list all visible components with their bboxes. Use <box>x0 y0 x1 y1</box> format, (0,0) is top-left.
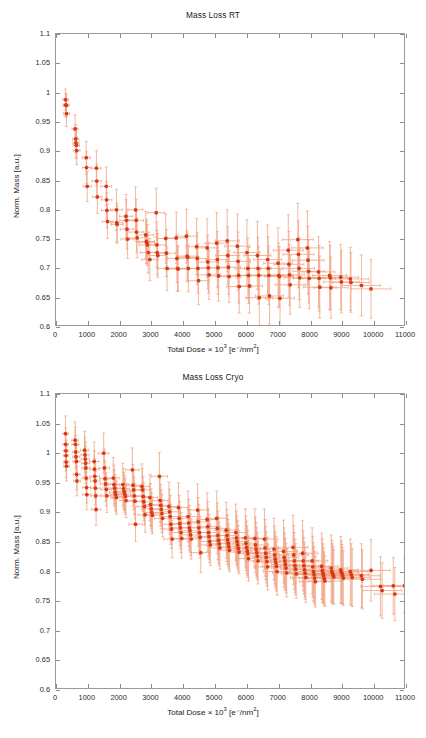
y-tick <box>56 298 60 299</box>
x-tick <box>151 684 152 688</box>
y-tick-label: 1.05 <box>12 418 50 427</box>
x-tick-top <box>311 394 312 398</box>
x-tick <box>374 321 375 325</box>
x-tick-top <box>374 34 375 38</box>
x-tick-top <box>183 394 184 398</box>
x-tick-label: 3000 <box>142 693 158 702</box>
x-tick <box>342 321 343 325</box>
y-tick <box>56 210 60 211</box>
y-tick-right <box>400 298 404 299</box>
y-tick-right <box>400 239 404 240</box>
x-tick-label: 3000 <box>142 330 158 339</box>
y-tick <box>56 34 60 35</box>
x-tick-top <box>342 34 343 38</box>
y-tick-label: 0.6 <box>12 685 50 694</box>
y-tick-right <box>400 327 404 328</box>
x-tick-top <box>88 34 89 38</box>
y-tick <box>56 151 60 152</box>
x-tick <box>151 321 152 325</box>
x-tick-label: 0 <box>53 693 57 702</box>
y-tick-label: 0.75 <box>12 234 50 243</box>
x-tick <box>342 684 343 688</box>
y-tick-label: 0.6 <box>12 322 50 331</box>
x-tick <box>56 684 57 688</box>
x-tick-label: 8000 <box>301 330 317 339</box>
plot-area-rt <box>55 33 405 326</box>
x-tick-top <box>374 394 375 398</box>
y-tick <box>56 690 60 691</box>
x-tick-label: 2000 <box>110 693 126 702</box>
y-tick-right <box>400 631 404 632</box>
error-bars <box>63 416 404 621</box>
y-tick-label: 0.75 <box>12 596 50 605</box>
data-layer-rt <box>56 34 404 325</box>
x-tick <box>247 321 248 325</box>
x-tick <box>56 321 57 325</box>
y-tick-right <box>400 601 404 602</box>
error-bars <box>63 89 391 325</box>
y-tick-label: 1.1 <box>12 389 50 398</box>
y-tick-right <box>400 572 404 573</box>
y-tick <box>56 93 60 94</box>
x-tick-top <box>151 34 152 38</box>
y-tick-right <box>400 424 404 425</box>
y-tick-right <box>400 181 404 182</box>
x-tick <box>120 321 121 325</box>
x-tick-top <box>247 34 248 38</box>
figure-root: Mass Loss RT Norm. Mass [a.u.] Total Dos… <box>0 0 426 738</box>
x-tick <box>247 684 248 688</box>
y-tick-right <box>400 690 404 691</box>
y-tick <box>56 453 60 454</box>
y-tick <box>56 122 60 123</box>
y-tick-label: 1 <box>12 87 50 96</box>
y-tick-right <box>400 93 404 94</box>
chart-panel-rt: Mass Loss RT Norm. Mass [a.u.] Total Dos… <box>0 0 426 368</box>
y-tick-right <box>400 542 404 543</box>
y-tick <box>56 327 60 328</box>
y-tick-right <box>400 122 404 123</box>
y-tick <box>56 542 60 543</box>
y-tick-label: 0.65 <box>12 655 50 664</box>
x-tick-label: 1000 <box>79 330 95 339</box>
x-tick <box>374 684 375 688</box>
x-tick <box>279 684 280 688</box>
x-tick <box>183 684 184 688</box>
x-tick-label: 11000 <box>395 330 415 339</box>
x-tick-label: 0 <box>53 330 57 339</box>
x-tick <box>120 684 121 688</box>
x-tick-label: 6000 <box>238 693 254 702</box>
y-tick-label: 0.9 <box>12 146 50 155</box>
y-tick-right <box>400 660 404 661</box>
x-tick-top <box>279 394 280 398</box>
x-tick-label: 5000 <box>206 693 222 702</box>
y-tick <box>56 239 60 240</box>
x-tick <box>215 321 216 325</box>
x-tick-top <box>406 34 407 38</box>
x-tick-label: 8000 <box>301 693 317 702</box>
y-tick-label: 0.9 <box>12 507 50 516</box>
y-tick-right <box>400 210 404 211</box>
y-tick-label: 0.65 <box>12 292 50 301</box>
x-tick <box>406 321 407 325</box>
x-tick-top <box>215 394 216 398</box>
y-tick <box>56 572 60 573</box>
y-tick <box>56 268 60 269</box>
x-tick <box>279 321 280 325</box>
x-tick <box>311 321 312 325</box>
y-tick <box>56 631 60 632</box>
x-tick-label: 7000 <box>269 330 285 339</box>
x-tick-top <box>279 34 280 38</box>
x-tick-label: 7000 <box>269 693 285 702</box>
x-tick-top <box>311 34 312 38</box>
y-tick-label: 0.95 <box>12 116 50 125</box>
x-tick-top <box>88 394 89 398</box>
y-tick-label: 0.8 <box>12 204 50 213</box>
y-tick-right <box>400 512 404 513</box>
y-tick <box>56 394 60 395</box>
x-tick-top <box>215 34 216 38</box>
y-tick-right <box>400 453 404 454</box>
x-tick-label: 2000 <box>110 330 126 339</box>
x-tick-top <box>406 394 407 398</box>
x-tick-label: 10000 <box>363 693 384 702</box>
y-tick-label: 0.7 <box>12 263 50 272</box>
